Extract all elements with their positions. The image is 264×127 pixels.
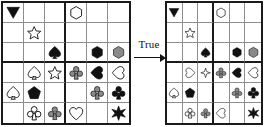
cell-r4-c1[interactable] xyxy=(3,63,24,83)
cell-r5-c4[interactable] xyxy=(214,83,230,103)
cell-r3-c3[interactable] xyxy=(45,43,66,63)
cell-r3-c5[interactable] xyxy=(87,43,108,63)
cell-r5-c3[interactable] xyxy=(198,83,214,103)
left-grid[interactable] xyxy=(1,1,131,125)
transformation-arrow-group: True xyxy=(132,38,166,72)
cell-r3-c4[interactable] xyxy=(66,43,87,63)
club-gray-icon xyxy=(68,65,84,81)
cell-r6-c4[interactable] xyxy=(66,103,87,123)
cell-r3-c2[interactable] xyxy=(183,43,199,63)
cell-r3-c6[interactable] xyxy=(108,43,129,63)
cell-r2-c6[interactable] xyxy=(245,23,261,43)
cell-r5-c6[interactable] xyxy=(108,83,129,103)
cell-r1-c5[interactable] xyxy=(87,3,108,23)
cell-r1-c1[interactable] xyxy=(3,3,24,23)
cell-r5-c2[interactable] xyxy=(24,83,45,103)
cell-r4-c4[interactable] xyxy=(66,63,87,83)
hexagon-black-icon xyxy=(231,45,243,60)
cell-r2-c6[interactable] xyxy=(108,23,129,43)
cell-r1-c5[interactable] xyxy=(230,3,246,23)
cell-r4-c1[interactable] xyxy=(167,63,183,83)
cell-r2-c1[interactable] xyxy=(3,23,24,43)
cell-r4-c2[interactable] xyxy=(183,63,199,83)
cell-r1-c1[interactable] xyxy=(167,3,183,23)
cell-r5-c3[interactable] xyxy=(45,83,66,103)
cell-r3-c5[interactable] xyxy=(230,43,246,63)
star6-black-icon xyxy=(247,105,260,121)
cell-r6-c3[interactable] xyxy=(45,103,66,123)
cell-r5-c4[interactable] xyxy=(66,83,87,103)
cell-r1-c4[interactable] xyxy=(214,3,230,23)
cell-r2-c3[interactable] xyxy=(198,23,214,43)
club-gray-icon xyxy=(47,105,63,121)
cell-r1-c6[interactable] xyxy=(245,3,261,23)
pentagon-black-icon xyxy=(184,85,196,101)
cell-r3-c4[interactable] xyxy=(214,43,230,63)
club-black-icon xyxy=(110,85,127,101)
cell-r4-c5[interactable] xyxy=(87,63,108,83)
cell-r1-c3[interactable] xyxy=(198,3,214,23)
cell-r2-c4[interactable] xyxy=(214,23,230,43)
cell-r2-c5[interactable] xyxy=(230,23,246,43)
cell-r4-c4[interactable] xyxy=(214,63,230,83)
cell-r1-c2[interactable] xyxy=(183,3,199,23)
cell-r1-c6[interactable] xyxy=(108,3,129,23)
cell-r6-c2[interactable] xyxy=(183,103,199,123)
cell-r1-c4[interactable] xyxy=(66,3,87,23)
cell-r6-c5[interactable] xyxy=(87,103,108,123)
cell-r4-c5[interactable] xyxy=(230,63,246,83)
cell-r2-c4[interactable] xyxy=(66,23,87,43)
cell-r4-c3[interactable] xyxy=(45,63,66,83)
cell-r3-c1[interactable] xyxy=(3,43,24,63)
heart-right-white-icon xyxy=(184,65,196,81)
cell-r2-c1[interactable] xyxy=(167,23,183,43)
heart-left-white-icon xyxy=(215,105,227,121)
cell-r4-c2[interactable] xyxy=(24,63,45,83)
cell-r5-c2[interactable] xyxy=(183,83,199,103)
cell-r4-c3[interactable] xyxy=(198,63,214,83)
spade-black-icon xyxy=(200,45,211,60)
spade-black-icon xyxy=(47,45,63,60)
triangle-down-black-icon xyxy=(168,5,180,21)
cell-r4-c6[interactable] xyxy=(245,63,261,83)
cell-r6-c3[interactable] xyxy=(198,103,214,123)
cell-r1-c3[interactable] xyxy=(45,3,66,23)
cell-r6-c1[interactable] xyxy=(167,103,183,123)
cell-r6-c4[interactable] xyxy=(214,103,230,123)
cell-r3-c1[interactable] xyxy=(167,43,183,63)
cell-r6-c6[interactable] xyxy=(108,103,129,123)
figure-canvas: True xyxy=(0,0,264,127)
club-white-icon xyxy=(26,105,42,121)
club-gray-icon xyxy=(200,105,211,121)
cell-r5-c6[interactable] xyxy=(245,83,261,103)
heart-left-white-icon xyxy=(247,65,260,81)
star5-white-icon xyxy=(184,25,196,41)
right-grid[interactable] xyxy=(165,1,263,125)
cell-r6-c1[interactable] xyxy=(3,103,24,123)
cell-r6-c2[interactable] xyxy=(24,103,45,123)
cell-r1-c2[interactable] xyxy=(24,3,45,23)
heart-white-icon xyxy=(68,105,84,121)
spade-white-icon xyxy=(168,85,180,101)
cell-r5-c1[interactable] xyxy=(167,83,183,103)
cell-r4-c6[interactable] xyxy=(108,63,129,83)
cell-r5-c5[interactable] xyxy=(230,83,246,103)
cell-r5-c5[interactable] xyxy=(87,83,108,103)
pentagon-black-icon xyxy=(26,85,42,101)
cell-r2-c5[interactable] xyxy=(87,23,108,43)
relation-label: True xyxy=(132,38,166,50)
cell-r2-c2[interactable] xyxy=(183,23,199,43)
star5-white-icon xyxy=(26,25,42,41)
cell-r2-c2[interactable] xyxy=(24,23,45,43)
arrow-shaft-icon xyxy=(134,57,162,58)
cell-r3-c6[interactable] xyxy=(245,43,261,63)
cell-r6-c6[interactable] xyxy=(245,103,261,123)
hexagon-white-icon xyxy=(68,5,84,21)
cell-r6-c5[interactable] xyxy=(230,103,246,123)
star4-white-icon xyxy=(200,65,211,81)
cell-r5-c1[interactable] xyxy=(3,83,24,103)
cell-r2-c3[interactable] xyxy=(45,23,66,43)
heart-left-black-icon xyxy=(89,65,105,81)
cell-r3-c2[interactable] xyxy=(24,43,45,63)
cell-r3-c3[interactable] xyxy=(198,43,214,63)
